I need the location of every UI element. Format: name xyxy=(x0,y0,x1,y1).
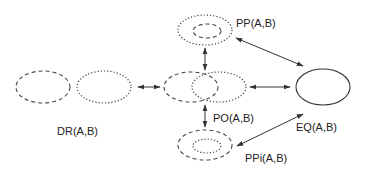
eq-label: EQ(A,B) xyxy=(296,121,337,133)
ppi-region-b-dotted-inner xyxy=(193,139,221,153)
ppi-region-a-dashed-outer xyxy=(178,130,232,160)
dr-label: DR(A,B) xyxy=(57,125,98,137)
po-region-a-dashed xyxy=(164,72,218,102)
po-region-b-dotted xyxy=(192,72,246,102)
po-node: PO(A,B) xyxy=(164,72,254,124)
eq-region-solid xyxy=(296,69,350,105)
rcc-relations-diagram: DR(A,B) PO(A,B) PP(A,B) EQ(A,B) PPi(A,B) xyxy=(0,0,368,172)
pp-node: PP(A,B) xyxy=(178,15,276,45)
pp-label: PP(A,B) xyxy=(236,17,276,29)
po-label: PO(A,B) xyxy=(213,112,254,124)
dr-node: DR(A,B) xyxy=(16,71,131,137)
ppi-node: PPi(A,B) xyxy=(178,130,287,164)
pp-region-a-dashed-inner xyxy=(193,24,221,38)
pp-eq-arrow xyxy=(236,38,303,66)
ppi-label: PPi(A,B) xyxy=(245,152,287,164)
dr-region-b-dotted xyxy=(77,71,131,103)
eq-node: EQ(A,B) xyxy=(296,69,350,133)
pp-region-b-dotted-outer xyxy=(178,15,232,45)
dr-region-a-dashed xyxy=(16,71,70,103)
